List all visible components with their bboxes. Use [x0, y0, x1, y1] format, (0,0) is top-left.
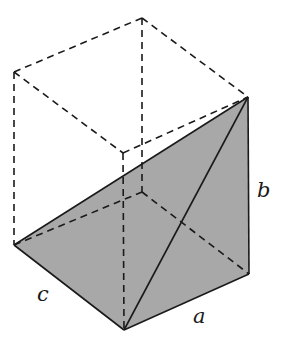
- label-b: b: [257, 178, 270, 202]
- box-diagram: b c a: [0, 0, 282, 342]
- label-c: c: [37, 282, 49, 306]
- label-a: a: [193, 304, 206, 328]
- shaded-solid: [14, 97, 249, 330]
